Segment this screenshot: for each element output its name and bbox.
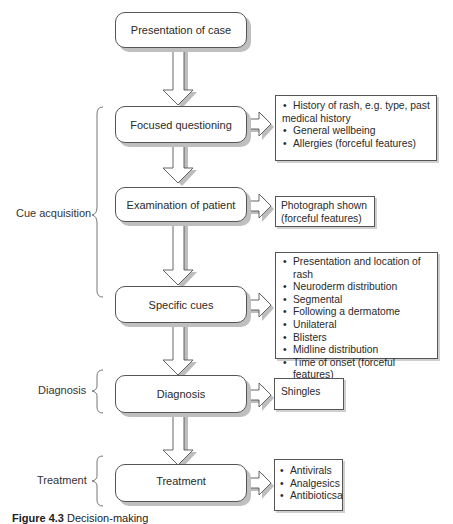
- node-examination-of-patient: Examination of patient: [115, 187, 247, 222]
- node-specific-cues: Specific cues: [115, 286, 247, 323]
- brace-treatment: [92, 456, 103, 506]
- node-label: Diagnosis: [157, 388, 205, 400]
- note-examination: Photograph shown (forceful features): [275, 196, 375, 227]
- node-label: Focused questioning: [130, 119, 232, 131]
- note-item: Analgesics: [279, 478, 338, 491]
- arrow-treatment-to-note: [245, 471, 274, 499]
- arrow-specific-to-note: [245, 293, 274, 321]
- note-item-continuation: medical history: [282, 113, 430, 126]
- node-presentation-of-case: Presentation of case: [115, 12, 247, 48]
- caption-number: Figure 4.3: [12, 512, 64, 524]
- arrow-focused-to-note: [245, 112, 274, 140]
- phase-label-diagnosis: Diagnosis: [38, 384, 86, 396]
- note-line: (forceful features): [281, 213, 369, 226]
- brace-cue-acquisition: [92, 107, 103, 297]
- note-specific-cues: Presentation and location of rash Neurod…: [275, 252, 438, 359]
- arrow-specific-to-diagnosis: [163, 322, 197, 378]
- note-item: Segmental: [282, 294, 431, 307]
- node-label: Examination of patient: [127, 199, 236, 211]
- note-item: Presentation and location of rash: [282, 256, 431, 281]
- arrow-examination-to-specific: [163, 220, 197, 288]
- arrow-examination-to-note: [245, 194, 274, 222]
- phase-label-cue-acquisition: Cue acquisition: [16, 207, 91, 219]
- note-treatment: Antivirals Analgesics Antibioticsa: [274, 459, 343, 511]
- node-label: Specific cues: [149, 299, 214, 311]
- arrow-presentation-to-focused: [163, 46, 197, 108]
- note-item: Antivirals: [279, 465, 338, 478]
- note-item: Allergies (forceful features): [282, 138, 430, 151]
- note-item: Unilateral: [282, 319, 431, 332]
- node-label: Treatment: [156, 475, 206, 487]
- note-item: Antibioticsa: [279, 490, 338, 503]
- note-item: Midline distribution: [282, 344, 431, 357]
- node-diagnosis: Diagnosis: [115, 375, 247, 413]
- arrow-diagnosis-to-note: [245, 383, 274, 411]
- figure-caption: Figure 4.3 Decision-making: [12, 512, 148, 524]
- note-line: Shingles: [281, 386, 337, 399]
- note-item: History of rash, e.g. type, past: [282, 100, 430, 113]
- arrow-focused-to-examination: [163, 144, 197, 186]
- note-focused-questioning: History of rash, e.g. type, past medical…: [275, 95, 437, 161]
- arrow-diagnosis-to-treatment: [163, 412, 197, 468]
- note-item: Blisters: [282, 332, 431, 345]
- phase-label-treatment: Treatment: [37, 474, 87, 486]
- caption-text: Decision-making: [67, 512, 148, 524]
- note-item: Neuroderm distribution: [282, 281, 431, 294]
- node-treatment: Treatment: [115, 464, 247, 502]
- note-line: Photograph shown: [281, 200, 369, 213]
- brace-diagnosis: [92, 370, 103, 413]
- node-label: Presentation of case: [131, 24, 231, 36]
- note-diagnosis: Shingles: [274, 378, 344, 410]
- note-item: General wellbeing: [282, 125, 430, 138]
- node-focused-questioning: Focused questioning: [115, 106, 247, 143]
- note-item: Following a dermatome: [282, 306, 431, 319]
